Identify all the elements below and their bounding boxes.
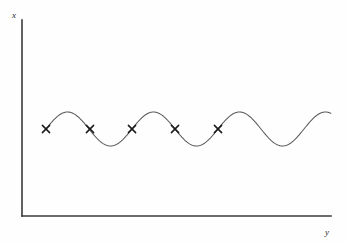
sine-curve-path	[46, 112, 331, 146]
axes-group	[22, 20, 331, 216]
x-marker	[214, 125, 221, 132]
x-axis-label: x	[12, 11, 16, 20]
x-marker	[171, 125, 178, 132]
x-marker	[42, 125, 49, 132]
x-marker	[86, 125, 93, 132]
plot-svg	[0, 0, 346, 244]
curve-group	[46, 112, 331, 146]
figure-canvas: x y	[0, 0, 346, 244]
x-marker	[128, 125, 135, 132]
y-axis-label: y	[325, 228, 329, 237]
marker-group	[42, 125, 221, 132]
